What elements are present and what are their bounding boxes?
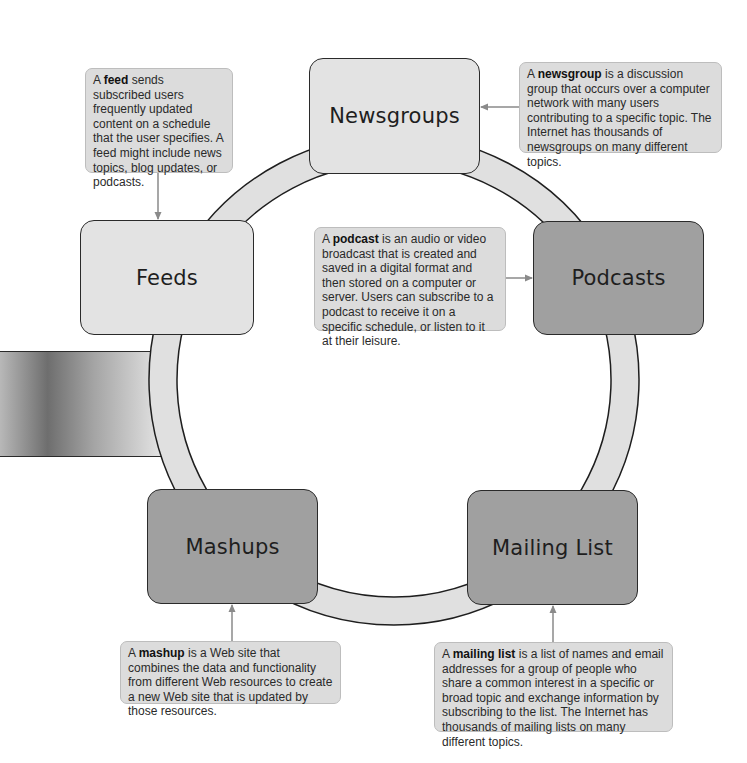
node-label-mashups: Mashups bbox=[185, 535, 279, 559]
node-label-newsgroups: Newsgroups bbox=[329, 104, 460, 128]
node-label-podcasts: Podcasts bbox=[571, 266, 665, 290]
node-newsgroups: Newsgroups bbox=[309, 58, 480, 174]
node-feeds: Feeds bbox=[80, 220, 254, 335]
callout-prefix: A bbox=[322, 232, 333, 246]
node-podcasts: Podcasts bbox=[533, 221, 704, 335]
node-mailing-list: Mailing List bbox=[467, 490, 638, 605]
callout-term: mashup bbox=[139, 646, 185, 660]
node-label-mailing-list: Mailing List bbox=[492, 536, 613, 560]
callout-prefix: A bbox=[527, 67, 538, 81]
callout-term: mailing list bbox=[453, 647, 516, 661]
callout-prefix: A bbox=[442, 647, 453, 661]
callout-term: podcast bbox=[333, 232, 379, 246]
callout-podcast: A podcast is an audio or video broadcast… bbox=[314, 227, 506, 331]
callout-prefix: A bbox=[93, 73, 104, 87]
callout-text: is a discussion group that occurs over a… bbox=[527, 67, 712, 169]
callout-mailing-list: A mailing list is a list of names and em… bbox=[434, 642, 673, 732]
callout-term: feed bbox=[104, 73, 129, 87]
callout-term: newsgroup bbox=[538, 67, 602, 81]
callout-prefix: A bbox=[128, 646, 139, 660]
gradient-bar bbox=[0, 351, 170, 457]
callout-newsgroup: A newsgroup is a discussion group that o… bbox=[519, 62, 722, 153]
callout-feed: A feed sends subscribed users frequently… bbox=[85, 68, 233, 173]
node-mashups: Mashups bbox=[147, 489, 318, 604]
callout-text: sends subscribed users frequently update… bbox=[93, 73, 223, 189]
callout-text: is an audio or video broadcast that is c… bbox=[322, 232, 493, 348]
node-label-feeds: Feeds bbox=[136, 266, 198, 290]
callout-mashup: A mashup is a Web site that combines the… bbox=[120, 641, 341, 704]
